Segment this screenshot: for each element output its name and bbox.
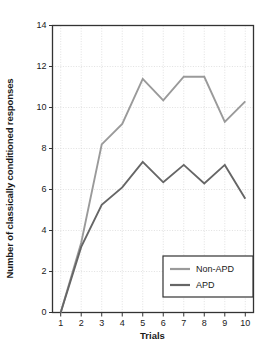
y-axis-ticks: 02468101214	[36, 20, 52, 317]
chart-legend[interactable]: Non-APDAPD	[163, 256, 253, 297]
x-tick-label: 2	[79, 318, 84, 328]
x-tick-label: 7	[181, 318, 186, 328]
x-tick-label: 3	[99, 318, 104, 328]
legend-label-apd: APD	[196, 280, 215, 290]
x-tick-label: 1	[58, 318, 63, 328]
y-tick-label: 6	[41, 184, 46, 194]
legend-label-non-apd: Non-APD	[196, 264, 235, 274]
y-tick-label: 12	[36, 61, 46, 71]
y-tick-label: 4	[41, 225, 46, 235]
y-tick-label: 14	[36, 20, 46, 30]
x-tick-label: 5	[140, 318, 145, 328]
y-tick-label: 10	[36, 102, 46, 112]
y-tick-label: 8	[41, 143, 46, 153]
x-tick-label: 8	[202, 318, 207, 328]
line-chart-plot: 02468101214 12345678910 Non-APDAPD	[0, 0, 264, 357]
chart-figure: Number of classically conditioned respon…	[0, 0, 264, 357]
y-tick-label: 0	[41, 307, 46, 317]
x-tick-label: 6	[161, 318, 166, 328]
x-axis-ticks: 12345678910	[58, 313, 250, 329]
x-tick-label: 10	[240, 318, 250, 328]
x-tick-label: 9	[222, 318, 227, 328]
y-tick-label: 2	[41, 266, 46, 276]
legend-box	[163, 256, 253, 297]
x-tick-label: 4	[120, 318, 125, 328]
